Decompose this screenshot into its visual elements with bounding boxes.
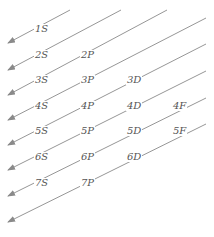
orbital-label-2p: 2P (80, 50, 95, 60)
orbital-label-1s: 1S (34, 24, 49, 34)
arrow-8 (8, 124, 206, 222)
orbital-label-7p: 7P (80, 178, 95, 188)
orbital-label-3p: 3P (80, 75, 95, 85)
orbital-label-4d: 4D (126, 101, 142, 111)
orbital-label-4f: 4F (172, 101, 187, 111)
orbital-label-3d: 3D (126, 75, 142, 85)
diagonal-arrows (0, 0, 214, 237)
orbital-label-3s: 3S (34, 75, 49, 85)
orbital-label-2s: 2S (34, 50, 49, 60)
aufbau-diagram: 1S2S2P3S3P3D4S4P4D4F5S5P5D5F6S6P6D7S7P (0, 0, 214, 237)
orbital-label-6p: 6P (80, 152, 95, 162)
orbital-label-6d: 6D (126, 152, 142, 162)
orbital-label-4p: 4P (80, 101, 95, 111)
orbital-label-5d: 5D (126, 126, 142, 136)
orbital-label-4s: 4S (34, 101, 49, 111)
orbital-label-5p: 5P (80, 126, 95, 136)
orbital-label-7s: 7S (34, 178, 49, 188)
orbital-label-6s: 6S (34, 152, 49, 162)
orbital-label-5f: 5F (172, 126, 187, 136)
arrow-2 (8, 10, 121, 70)
orbital-label-5s: 5S (34, 126, 49, 136)
